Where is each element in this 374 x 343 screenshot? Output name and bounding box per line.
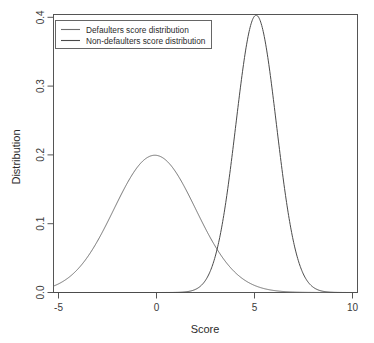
y-tick-label-2: 0.2 xyxy=(35,148,46,162)
y-tick-label-1: 0.1 xyxy=(35,216,46,230)
data-curves xyxy=(54,15,358,292)
x-tick-label-1: 0 xyxy=(154,302,160,313)
y-tick-label-4: 0.4 xyxy=(35,10,46,24)
distribution-plot: -5 0 5 10 0.0 0.1 0.2 0.3 0.4 Score Dist… xyxy=(0,0,374,343)
curve-non-defaulters xyxy=(54,15,358,292)
legend-label-defaulters: Defaulters score distribution xyxy=(86,25,189,35)
plot-frame xyxy=(54,15,358,293)
x-tick-label-2: 5 xyxy=(252,302,258,313)
x-axis-tick-labels: -5 0 5 10 xyxy=(54,302,358,313)
y-tick-label-3: 0.3 xyxy=(35,79,46,93)
y-axis-ticks xyxy=(48,17,54,292)
y-tick-label-0: 0.0 xyxy=(35,285,46,299)
y-axis-title: Distribution xyxy=(10,129,22,184)
chart-container: -5 0 5 10 0.0 0.1 0.2 0.3 0.4 Score Dist… xyxy=(0,0,374,343)
curve-defaulters xyxy=(54,155,358,292)
x-tick-label-0: -5 xyxy=(54,302,63,313)
x-tick-label-3: 10 xyxy=(347,302,359,313)
legend-label-non-defaulters: Non-defaulters score distribution xyxy=(86,36,206,46)
chart-legend: Defaulters score distribution Non-defaul… xyxy=(56,21,212,49)
x-axis-title: Score xyxy=(191,323,220,335)
x-axis-ticks xyxy=(59,293,353,299)
y-axis-tick-labels: 0.0 0.1 0.2 0.3 0.4 xyxy=(35,10,46,300)
